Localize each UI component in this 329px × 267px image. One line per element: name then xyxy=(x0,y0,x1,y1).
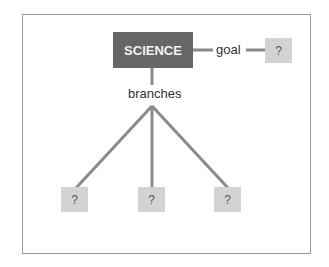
branch-node-2-label: ? xyxy=(148,193,155,207)
branch-node-3-label: ? xyxy=(224,193,231,207)
science-node-label: SCIENCE xyxy=(124,43,182,58)
science-node: SCIENCE xyxy=(113,32,193,68)
goal-node-label: ? xyxy=(275,44,282,58)
goal-unknown-node: ? xyxy=(265,38,292,63)
branch-line-right xyxy=(152,106,228,188)
goal-edge-label: goal xyxy=(214,42,243,58)
branch-node-1-label: ? xyxy=(71,193,78,207)
branch-node-1: ? xyxy=(61,187,88,212)
branch-line-left xyxy=(76,106,152,188)
branch-node-2: ? xyxy=(138,187,165,212)
branches-edge-label: branches xyxy=(126,86,183,102)
branch-node-3: ? xyxy=(214,187,241,212)
